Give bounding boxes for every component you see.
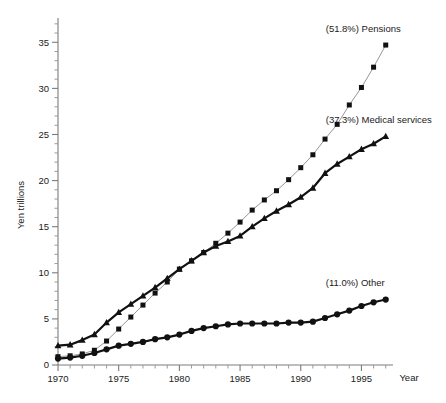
data-point-marker	[140, 339, 146, 345]
line-chart: 05101520253035197019751980198519901995 (…	[0, 0, 446, 403]
data-point-marker	[323, 137, 328, 142]
x-tick-label: 1985	[229, 373, 250, 384]
data-point-marker	[310, 319, 316, 325]
y-tick-label: 0	[44, 359, 49, 370]
data-point-marker	[359, 85, 364, 90]
data-point-marker	[225, 321, 231, 327]
data-point-marker	[91, 350, 97, 356]
data-point-marker	[347, 102, 352, 107]
series-other	[55, 296, 389, 361]
y-tick-label: 5	[44, 313, 49, 324]
data-point-marker	[286, 177, 291, 182]
chart-container: 05101520253035197019751980198519901995 (…	[0, 0, 446, 403]
data-point-marker	[261, 320, 267, 326]
series-label-pensions: (51.8%) Pensions	[326, 23, 401, 34]
data-point-marker	[176, 331, 182, 337]
data-point-marker	[358, 303, 364, 309]
y-tick-label: 35	[38, 37, 49, 48]
data-point-marker	[79, 353, 85, 359]
y-tick-label: 15	[38, 221, 49, 232]
data-point-marker	[164, 334, 170, 340]
data-point-marker	[104, 339, 109, 344]
data-point-marker	[383, 296, 389, 302]
x-tick-label: 1975	[108, 373, 129, 384]
data-point-marker	[103, 346, 109, 352]
data-point-marker	[322, 315, 328, 321]
series-label-medical-services: (37.3%) Medical services	[326, 114, 432, 125]
y-tick-label: 10	[38, 267, 49, 278]
data-point-marker	[152, 336, 158, 342]
data-point-marker	[238, 220, 243, 225]
data-point-marker	[55, 355, 61, 361]
data-point-marker	[249, 320, 255, 326]
data-point-marker	[274, 188, 279, 193]
x-tick-label: 1980	[169, 373, 190, 384]
data-point-marker	[334, 311, 340, 317]
data-point-marker	[128, 341, 134, 347]
series-layer	[55, 43, 390, 362]
y-tick-label: 25	[38, 129, 49, 140]
data-point-marker	[371, 65, 376, 70]
data-point-marker	[116, 343, 122, 349]
x-tick-label: 1970	[47, 373, 68, 384]
data-point-marker	[116, 327, 121, 332]
data-point-marker	[128, 315, 133, 320]
data-point-marker	[188, 328, 194, 334]
data-point-marker	[286, 319, 292, 325]
data-point-marker	[370, 299, 376, 305]
data-point-marker	[250, 208, 255, 213]
data-point-marker	[213, 323, 219, 329]
x-tick-label: 1995	[351, 373, 372, 384]
data-point-marker	[382, 133, 389, 139]
series-label-other: (11.0%) Other	[326, 277, 385, 288]
y-tick-label: 30	[38, 83, 49, 94]
data-point-marker	[298, 319, 304, 325]
data-point-marker	[310, 152, 315, 157]
x-axis-title: Year	[399, 372, 418, 383]
series-label-layer: (51.8%) Pensions(37.3%) Medical services…	[326, 23, 432, 287]
data-point-marker	[225, 231, 230, 236]
data-point-marker	[67, 355, 73, 361]
data-point-marker	[153, 291, 158, 296]
y-tick-label: 20	[38, 175, 49, 186]
data-point-marker	[262, 197, 267, 202]
data-point-marker	[273, 320, 279, 326]
data-point-marker	[346, 308, 352, 314]
data-point-marker	[383, 43, 388, 48]
data-point-marker	[201, 325, 207, 331]
series-line	[58, 45, 386, 357]
data-point-marker	[237, 320, 243, 326]
data-point-marker	[298, 165, 303, 170]
y-axis-title: Yen trillions	[15, 181, 26, 229]
data-point-marker	[140, 303, 145, 308]
x-tick-label: 1990	[290, 373, 311, 384]
